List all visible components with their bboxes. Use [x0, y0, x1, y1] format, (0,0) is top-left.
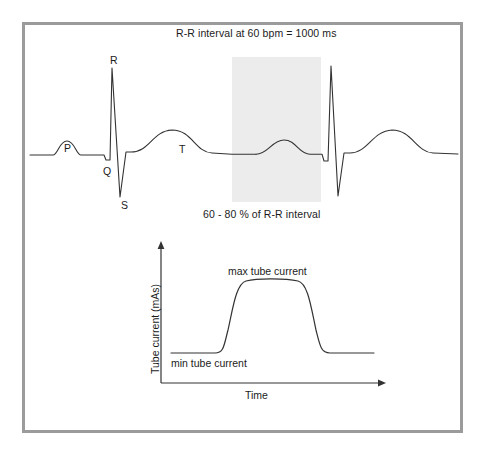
ecg-label-q: Q	[103, 166, 111, 177]
min-tube-current-label: min tube current	[171, 358, 247, 369]
ecg-beat-1	[30, 68, 256, 197]
ecg-label-s: S	[121, 200, 128, 211]
max-tube-current-label: max tube current	[228, 266, 307, 277]
ecg-label-r: R	[110, 55, 118, 66]
tube-current-curve	[171, 279, 374, 353]
acquisition-window-caption: 60 - 80 % of R-R interval	[203, 209, 320, 220]
ecg-trace	[30, 66, 458, 197]
y-axis-label: Tube current (mAs)	[150, 284, 161, 374]
rr-interval-caption: R-R interval at 60 bpm = 1000 ms	[176, 28, 336, 39]
y-axis-arrowhead	[158, 241, 165, 249]
ecg-beat-2	[256, 66, 458, 196]
ecg-label-p: P	[64, 143, 71, 154]
diagram-canvas	[0, 0, 485, 458]
x-axis-arrowhead	[378, 380, 386, 387]
ecg-label-t: T	[179, 144, 185, 155]
figure-root: R-R interval at 60 bpm = 1000 ms 60 - 80…	[0, 0, 485, 458]
x-axis-label: Time	[245, 390, 268, 401]
